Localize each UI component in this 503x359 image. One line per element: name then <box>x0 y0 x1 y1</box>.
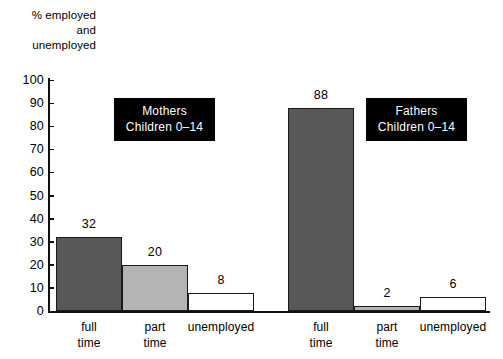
bar-value-label: 20 <box>122 246 188 259</box>
y-axis-tick-mark <box>49 287 54 289</box>
y-axis-title-line-3: unemployed <box>0 38 96 53</box>
y-axis-tick-label: 90 <box>4 97 44 109</box>
x-axis-category-label: unemployed <box>174 319 268 335</box>
y-axis-tick-mark <box>49 126 54 128</box>
bar <box>122 265 188 311</box>
x-axis-category-label-line: time <box>108 335 202 351</box>
y-axis-tick-mark <box>49 241 54 243</box>
bar-value-label: 32 <box>56 218 122 231</box>
y-axis-tick-mark <box>49 218 54 220</box>
bar-value-label: 88 <box>288 89 354 102</box>
y-axis-tick-mark <box>49 80 54 82</box>
y-axis-tick-label: 70 <box>4 143 44 155</box>
y-axis-tick-mark <box>49 103 54 105</box>
legend-fathers-line-1: Fathers <box>376 103 457 119</box>
y-axis-tick-mark <box>49 172 54 174</box>
y-axis-tick-label: 0 <box>4 305 44 317</box>
y-axis-tick-label: 50 <box>4 190 44 202</box>
bar-value-label: 2 <box>354 287 420 300</box>
legend-mothers-line-2: Children 0–14 <box>124 119 205 135</box>
y-axis-tick-mark <box>49 149 54 151</box>
y-axis-tick-mark <box>49 264 54 266</box>
x-axis-category-label-line: time <box>340 335 434 351</box>
legend-mothers: Mothers Children 0–14 <box>114 98 215 141</box>
y-axis-title: % employed and unemployed <box>0 8 96 53</box>
bar <box>420 297 486 311</box>
y-axis-tick-label: 60 <box>4 166 44 178</box>
x-axis-category-label-line: unemployed <box>406 319 500 335</box>
x-axis-line <box>48 311 490 313</box>
bar <box>56 237 122 311</box>
y-axis-tick-label: 10 <box>4 282 44 294</box>
legend-mothers-line-1: Mothers <box>124 103 205 119</box>
y-axis-tick-label: 20 <box>4 259 44 271</box>
x-axis-category-label-line: unemployed <box>174 319 268 335</box>
y-axis-tick-label: 30 <box>4 236 44 248</box>
x-axis-category-label: unemployed <box>406 319 500 335</box>
y-axis-title-line-1: % employed <box>0 8 96 23</box>
bar-chart: % employed and unemployed 10090807060504… <box>0 0 503 359</box>
legend-fathers: Fathers Children 0–14 <box>366 98 467 141</box>
bar-value-label: 6 <box>420 278 486 291</box>
y-axis-title-line-2: and <box>0 23 96 38</box>
y-axis-tick-label: 100 <box>4 74 44 86</box>
bar <box>354 306 420 311</box>
bar <box>288 108 354 311</box>
y-axis-tick-mark <box>49 311 54 313</box>
y-axis-tick-label: 40 <box>4 213 44 225</box>
legend-fathers-line-2: Children 0–14 <box>376 119 457 135</box>
bar-value-label: 8 <box>188 274 254 287</box>
y-axis-tick-mark <box>49 195 54 197</box>
y-axis-tick-label: 80 <box>4 120 44 132</box>
bar <box>188 293 254 311</box>
